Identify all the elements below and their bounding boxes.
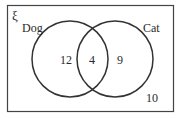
cat-only-value: 9 [117, 53, 123, 67]
dog-only-value: 12 [60, 53, 72, 67]
universal-set-symbol: ξ [12, 8, 18, 23]
dog-label: Dog [22, 21, 43, 35]
venn-diagram: ξ Dog Cat 12 4 9 10 [0, 0, 180, 118]
outside-value: 10 [146, 91, 158, 105]
cat-label: Cat [143, 21, 160, 35]
intersection-value: 4 [89, 53, 95, 67]
